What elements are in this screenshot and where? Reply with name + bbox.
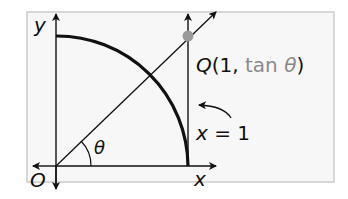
- point-q-tan: tan: [245, 53, 284, 77]
- x-axis-label: x: [193, 167, 206, 191]
- point-q: [183, 31, 194, 42]
- line-equation-label: x = 1: [195, 121, 250, 145]
- line-equation-rest: = 1: [208, 121, 250, 145]
- line-equation-var: x: [195, 121, 208, 145]
- point-q-open: (1,: [212, 53, 245, 77]
- point-q-label: Q(1, tan θ): [196, 53, 304, 77]
- unit-circle-tangent-diagram: y O x θ Q(1, tan θ) x = 1: [0, 0, 348, 199]
- point-q-name: Q: [196, 53, 212, 77]
- y-axis-label: y: [33, 13, 47, 37]
- point-q-theta: θ: [284, 53, 296, 77]
- angle-label: θ: [94, 137, 105, 158]
- origin-label: O: [30, 168, 46, 192]
- point-q-close: ): [296, 53, 304, 77]
